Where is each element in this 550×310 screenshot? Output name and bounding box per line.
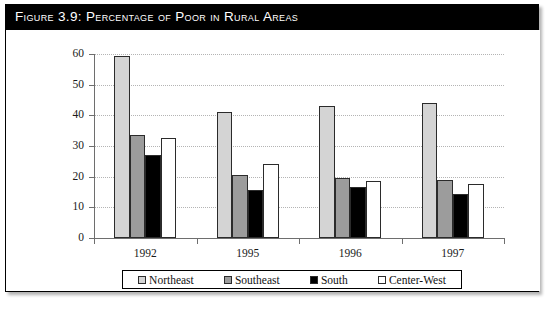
figure-title-bar: Figure 3.9: Percentage of Poor in Rural … xyxy=(6,5,538,30)
y-tick-label: 10 xyxy=(50,201,84,213)
x-tick-label-1997: 1997 xyxy=(423,247,483,259)
bar-northeast-1995 xyxy=(217,112,233,238)
bar-southeast-1997 xyxy=(437,180,453,238)
bar-center-west-1996 xyxy=(366,181,382,238)
bar-southeast-1996 xyxy=(335,178,351,238)
bar-south-1995 xyxy=(248,190,264,238)
legend-swatch-icon xyxy=(378,276,386,284)
legend-item-center-west: Center-West xyxy=(378,274,446,286)
y-tick-label: 50 xyxy=(50,79,84,91)
bar-center-west-1995 xyxy=(263,164,279,238)
y-tick-label: 30 xyxy=(50,140,84,152)
y-tick-label: 20 xyxy=(50,171,84,183)
bar-center-west-1997 xyxy=(468,184,484,238)
chart-area: 0102030405060 1992199519961997 Northeast… xyxy=(6,30,540,291)
x-tick-mark xyxy=(504,239,505,244)
legend-item-south: South xyxy=(310,274,348,286)
legend-item-northeast: Northeast xyxy=(138,274,194,286)
figure-title: Figure 3.9: Percentage of Poor in Rural … xyxy=(15,9,298,24)
x-tick-mark xyxy=(197,239,198,244)
plot-bars xyxy=(94,54,504,238)
bar-center-west-1992 xyxy=(161,138,177,238)
legend-label: Southeast xyxy=(235,274,280,286)
y-tick-label: 0 xyxy=(50,232,84,244)
x-tick-label-1995: 1995 xyxy=(218,247,278,259)
y-tick-label: 60 xyxy=(50,48,84,60)
legend-label: Northeast xyxy=(149,274,194,286)
legend-item-southeast: Southeast xyxy=(224,274,280,286)
legend-label: South xyxy=(321,274,348,286)
bar-southeast-1995 xyxy=(232,175,248,238)
x-tick-mark xyxy=(402,239,403,244)
bar-south-1997 xyxy=(453,194,469,238)
bar-northeast-1992 xyxy=(114,56,130,238)
bar-northeast-1997 xyxy=(422,103,438,238)
bar-southeast-1992 xyxy=(130,135,146,238)
legend-swatch-icon xyxy=(224,276,232,284)
x-tick-label-1992: 1992 xyxy=(115,247,175,259)
x-tick-label-1996: 1996 xyxy=(320,247,380,259)
bar-northeast-1996 xyxy=(319,106,335,238)
legend-swatch-icon xyxy=(310,276,318,284)
x-tick-mark xyxy=(299,239,300,244)
x-tick-mark xyxy=(94,239,95,244)
y-tick-label: 40 xyxy=(50,109,84,121)
bar-south-1992 xyxy=(145,155,161,238)
bar-south-1996 xyxy=(350,187,366,238)
legend-label: Center-West xyxy=(389,274,446,286)
chart-legend: NortheastSoutheastSouthCenter-West xyxy=(122,270,462,289)
figure-frame: Figure 3.9: Percentage of Poor in Rural … xyxy=(5,4,539,292)
legend-swatch-icon xyxy=(138,276,146,284)
